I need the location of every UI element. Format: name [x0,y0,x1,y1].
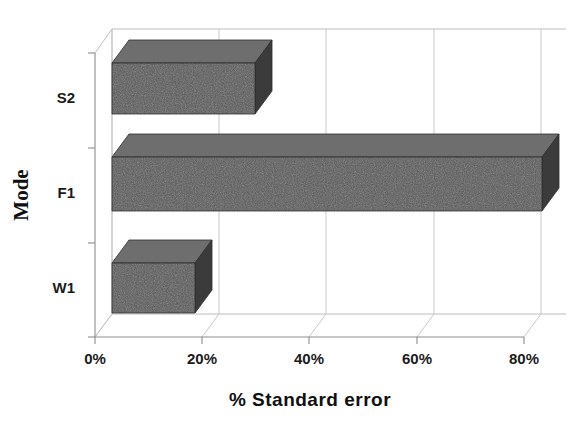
x-axis-title: % Standard error [229,389,391,410]
bar-w1-top-face [112,240,212,263]
bar-f1 [112,134,559,211]
chart-canvas: S2 F1 W1 0% 20% 40% 60% 80% % Standard e… [0,0,585,429]
bar-s2-top-face [112,40,272,63]
y-tick-label-w1: W1 [53,279,76,296]
x-tick-label-40: 40% [294,350,324,367]
bar-s2 [112,40,272,114]
bar-w1 [112,240,212,313]
x-tick-label-60: 60% [402,350,432,367]
y-tick-label-s2: S2 [57,89,75,106]
bar-f1-top-face [112,134,559,157]
bar-w1-front-face [112,263,195,313]
bar-s2-front-face [112,63,255,114]
bar-f1-front-face [112,157,542,211]
bar-chart: S2 F1 W1 0% 20% 40% 60% 80% % Standard e… [0,0,585,429]
y-axis-title: Mode [9,169,33,220]
x-tick-label-80: 80% [509,350,539,367]
x-tick-label-0: 0% [84,350,106,367]
x-tick-label-20: 20% [187,350,217,367]
y-tick-label-f1: F1 [57,184,75,201]
